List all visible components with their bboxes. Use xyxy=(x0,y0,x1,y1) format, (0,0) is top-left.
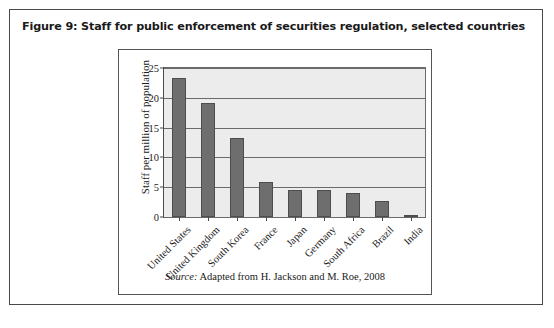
x-tick-mark xyxy=(324,217,325,221)
y-tick-label: 25 xyxy=(149,63,160,74)
x-tick-mark xyxy=(179,217,180,221)
y-tick-label: 5 xyxy=(154,182,159,193)
x-tick-mark xyxy=(208,217,209,221)
source-citation: Adapted from H. Jackson and M. Roe, 2008 xyxy=(197,271,385,282)
source-label: Source: xyxy=(165,271,197,282)
bar-series xyxy=(164,68,425,217)
plot-area: 0510152025 United StatesUnited KingdomSo… xyxy=(163,67,426,218)
bar xyxy=(375,201,389,217)
source-note: Source: Adapted from H. Jackson and M. R… xyxy=(119,271,431,282)
bar xyxy=(259,182,273,217)
bar xyxy=(172,78,186,217)
y-tick-label: 0 xyxy=(154,212,159,223)
y-tick-label: 20 xyxy=(149,92,160,103)
x-tick-mark xyxy=(266,217,267,221)
x-tick-mark xyxy=(353,217,354,221)
bar xyxy=(230,138,244,217)
bar xyxy=(288,190,302,217)
x-tick-mark xyxy=(295,217,296,221)
x-tick-mark xyxy=(411,217,412,221)
bar xyxy=(346,193,360,217)
page-title: Figure 9: Staff for public enforcement o… xyxy=(22,20,525,33)
bar xyxy=(317,190,331,217)
y-tick-label: 15 xyxy=(149,122,160,133)
x-tick-mark xyxy=(382,217,383,221)
x-tick-mark xyxy=(237,217,238,221)
figure-frame: Figure 9: Staff for public enforcement o… xyxy=(9,9,543,305)
chart-container: Staff per million of population 05101520… xyxy=(118,49,432,295)
bar xyxy=(201,103,215,217)
y-tick-label: 10 xyxy=(149,152,160,163)
